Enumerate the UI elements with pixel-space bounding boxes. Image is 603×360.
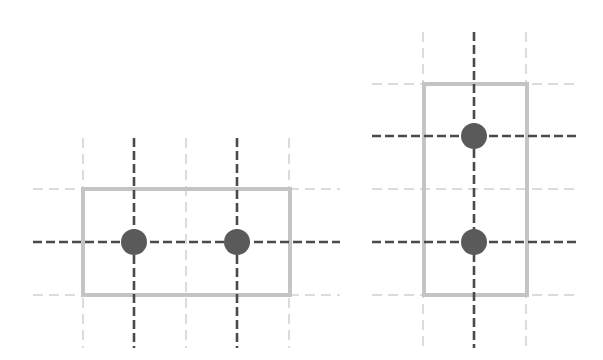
grid-dark-lines xyxy=(372,32,576,348)
figure-vertical-layout xyxy=(372,32,576,348)
figure-horizontal-layout xyxy=(33,138,340,348)
grid-dot xyxy=(224,229,250,255)
diagram-canvas xyxy=(0,0,603,360)
grid-dot xyxy=(461,229,487,255)
grid-dot xyxy=(461,123,487,149)
grid-dot xyxy=(121,229,147,255)
